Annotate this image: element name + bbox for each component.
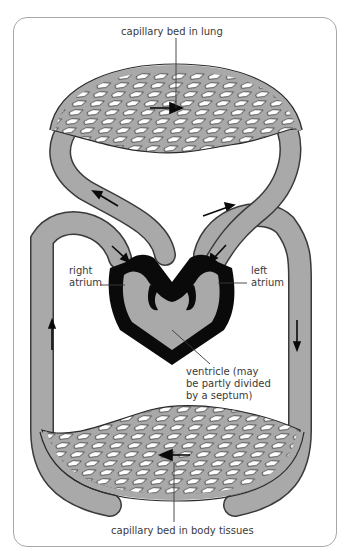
label-right-atrium-line1: right — [69, 265, 93, 277]
label-right-atrium-line2: atrium — [69, 277, 102, 289]
label-ventricle-line1: ventricle (may — [186, 366, 259, 378]
label-ventricle-line3: by a septum) — [186, 390, 252, 402]
label-left-atrium-line1: left — [251, 265, 267, 277]
label-ventricle-line2: be partly divided — [186, 378, 271, 390]
label-left-atrium-line2: atrium — [251, 277, 284, 289]
label-lung-capillary-bed: capillary bed in lung — [121, 26, 223, 38]
heart — [109, 255, 235, 365]
circulation-diagram — [0, 0, 345, 555]
label-body-capillary-bed: capillary bed in body tissues — [111, 525, 254, 537]
